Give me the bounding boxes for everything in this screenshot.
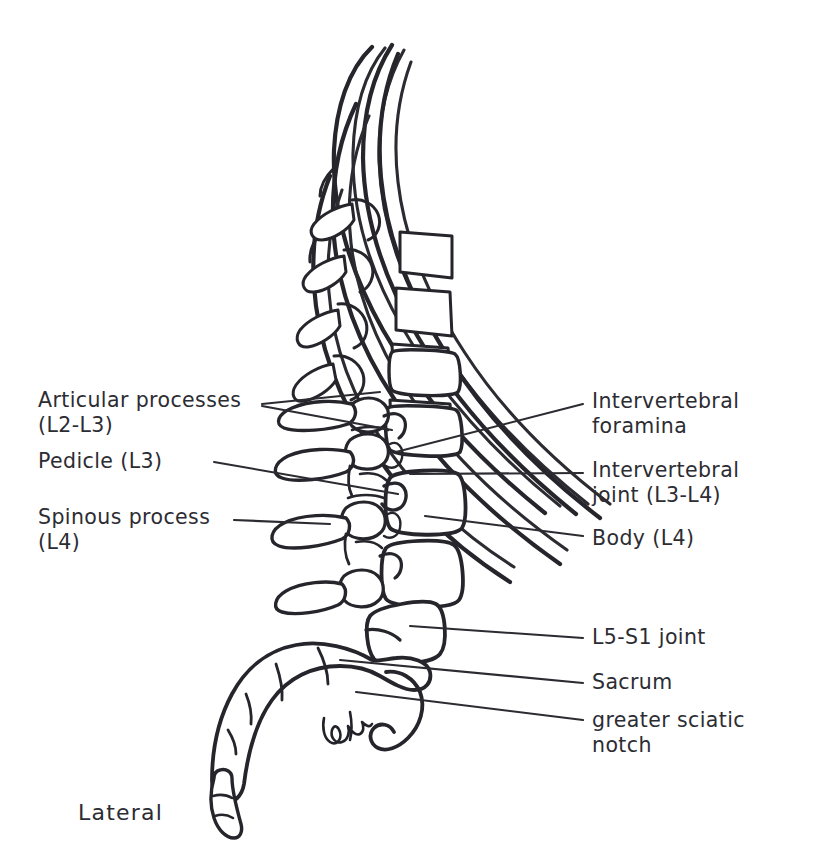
figure-caption: Lateral bbox=[78, 800, 163, 825]
lumbar-body-l5 bbox=[367, 602, 445, 664]
anatomical-figure: Articular processes (L2-L3) Pedicle (L3)… bbox=[0, 0, 814, 843]
label-intervertebral-joint: Intervertebral joint (L3-L4) bbox=[592, 458, 739, 508]
thoracic-body-2 bbox=[396, 288, 452, 336]
label-l5-s1-joint: L5-S1 joint bbox=[592, 625, 706, 650]
inferior-process-tip-1 bbox=[349, 466, 352, 496]
artist-signature bbox=[323, 712, 372, 743]
lumbar-body-l4 bbox=[382, 541, 463, 607]
thoracic-posterior-arch-3 bbox=[338, 304, 367, 348]
label-spinous-process: Spinous process (L4) bbox=[38, 505, 210, 555]
label-intervertebral-foramina: Intervertebral foramina bbox=[592, 389, 739, 439]
label-sacrum: Sacrum bbox=[592, 670, 673, 695]
transverse-detail-2 bbox=[356, 541, 382, 548]
lumbar-body-l3 bbox=[386, 471, 466, 535]
lumbar-body-l1 bbox=[389, 350, 460, 396]
leader-intervertebral-joint bbox=[410, 473, 583, 474]
label-body-l4: Body (L4) bbox=[592, 526, 694, 551]
label-articular-processes: Articular processes (L2-L3) bbox=[38, 388, 241, 438]
thoracic-spinous-3 bbox=[297, 310, 340, 347]
facet-joint-l3-l4 bbox=[348, 495, 384, 498]
leader-greater-sciatic-notch bbox=[356, 692, 583, 720]
label-pedicle: Pedicle (L3) bbox=[38, 449, 162, 474]
spinous-process-l4 bbox=[272, 515, 350, 548]
inferior-process-tip-2 bbox=[345, 534, 349, 564]
thoracic-spinous-4 bbox=[293, 364, 336, 401]
sacrum-outline bbox=[212, 643, 430, 802]
transverse-detail-1 bbox=[360, 473, 386, 480]
label-greater-sciatic-notch: greater sciatic notch bbox=[592, 708, 745, 758]
sacrum-group bbox=[211, 629, 430, 838]
spinous-process-l5 bbox=[276, 582, 346, 614]
thoracic-body-1 bbox=[400, 232, 452, 278]
